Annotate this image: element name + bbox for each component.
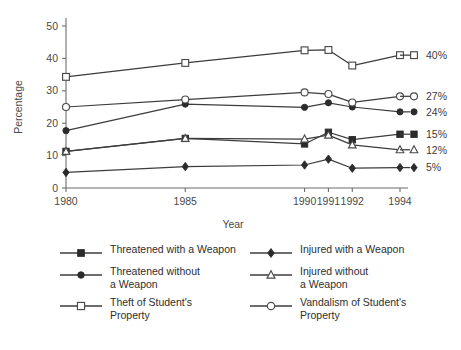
- data-point-open-circle-marker: [267, 302, 274, 309]
- legend-item-label: Threatened without a Weapon: [110, 265, 248, 290]
- data-point-open-circle-marker: [182, 96, 189, 103]
- data-point-filled-circle-marker: [78, 272, 85, 279]
- data-point-filled-diamond-marker: [63, 168, 69, 176]
- data-point-open-square-marker: [325, 47, 332, 54]
- data-point-open-square-marker: [411, 52, 418, 59]
- y-tick-label: 0: [52, 182, 58, 194]
- legend-item[interactable]: Theft of Student's Property: [58, 296, 248, 321]
- data-point-filled-diamond-marker: [325, 155, 331, 163]
- x-tick-label: 1980: [54, 195, 78, 207]
- data-point-open-triangle-marker: [410, 146, 418, 153]
- data-point-open-square-marker: [77, 302, 84, 309]
- data-point-open-circle-marker: [63, 104, 70, 111]
- legend-item-label: Theft of Student's Property: [110, 296, 248, 321]
- data-point-filled-circle-marker: [63, 128, 69, 134]
- legend-marker-filled-diamond: [248, 247, 294, 259]
- legend-marker-filled-circle: [58, 269, 104, 281]
- x-tick-label: 1992: [341, 195, 365, 207]
- legend-swatch: [58, 245, 104, 257]
- y-tick-label: 40: [46, 52, 58, 64]
- data-point-open-circle-marker: [301, 89, 308, 96]
- x-axis-title: Year: [222, 218, 244, 230]
- legend-item[interactable]: Injured with a Weapon: [248, 243, 448, 259]
- end-labels-group: 15%24%40%5%12%27%: [400, 49, 447, 173]
- legend-marker-filled-square: [58, 247, 104, 259]
- chart-legend: Threatened with a WeaponThreatened witho…: [0, 243, 461, 327]
- legend-swatch: [248, 267, 294, 279]
- data-point-filled-diamond-marker: [411, 163, 417, 171]
- y-tick-label: 20: [46, 117, 58, 129]
- series-end-label: 12%: [426, 144, 447, 156]
- series-end-label: 27%: [426, 90, 447, 102]
- data-point-open-square-marker: [349, 62, 356, 69]
- x-tick-label: 1990: [293, 195, 317, 207]
- data-point-filled-circle-marker: [411, 109, 417, 115]
- series-end-label: 40%: [426, 49, 447, 61]
- legend-item-label: Threatened with a Weapon: [110, 243, 248, 256]
- x-tick-label: 1994: [388, 195, 412, 207]
- data-point-filled-diamond-marker: [349, 164, 355, 172]
- data-point-filled-square-marker: [411, 131, 417, 137]
- legend-item-label: Injured without a Weapon: [300, 265, 448, 290]
- series-line-group: [63, 155, 403, 177]
- chart-axes: 01020304050198019851990199119921994: [46, 18, 412, 207]
- x-tick-label: 1985: [174, 195, 198, 207]
- y-tick-label: 50: [46, 20, 58, 32]
- data-point-filled-square-marker: [78, 250, 85, 257]
- data-point-filled-circle-marker: [325, 100, 331, 106]
- chart-series: [62, 47, 404, 177]
- legend-swatch: [248, 298, 294, 310]
- series-end-label: 15%: [426, 128, 447, 140]
- y-tick-label: 10: [46, 149, 58, 161]
- legend-column-right: Injured with a WeaponInjured without a W…: [248, 243, 448, 327]
- data-point-filled-circle-marker: [301, 104, 307, 110]
- legend-marker-open-square: [58, 300, 104, 312]
- data-point-open-square-marker: [63, 73, 70, 80]
- legend-swatch: [248, 245, 294, 257]
- legend-item[interactable]: Threatened with a Weapon: [58, 243, 248, 259]
- series-line-group: [62, 131, 404, 154]
- legend-marker-open-circle: [248, 300, 294, 312]
- series-line-group: [63, 47, 404, 81]
- legend-item-label: Injured with a Weapon: [300, 243, 448, 256]
- data-point-open-circle-marker: [325, 91, 332, 98]
- data-point-open-square-marker: [182, 60, 189, 67]
- x-tick-label: 1991: [317, 195, 341, 207]
- y-axis-title: Percentage: [12, 80, 24, 134]
- data-point-open-square-marker: [301, 47, 308, 54]
- data-point-open-circle-marker: [411, 93, 418, 100]
- data-point-filled-diamond-marker: [301, 161, 307, 169]
- legend-item[interactable]: Vandalism of Student's Property: [248, 296, 448, 321]
- legend-item[interactable]: Threatened without a Weapon: [58, 265, 248, 290]
- y-tick-label: 30: [46, 84, 58, 96]
- chart-page: 01020304050198019851990199119921994 15%2…: [0, 0, 461, 350]
- data-point-filled-diamond-marker: [182, 162, 188, 170]
- data-point-filled-diamond-marker: [268, 249, 275, 258]
- legend-swatch: [58, 267, 104, 279]
- line-chart-plot: 01020304050198019851990199119921994 15%2…: [0, 0, 461, 230]
- legend-item[interactable]: Injured without a Weapon: [248, 265, 448, 290]
- legend-column-left: Threatened with a WeaponThreatened witho…: [58, 243, 248, 327]
- legend-swatch: [58, 298, 104, 310]
- data-point-open-circle-marker: [349, 99, 356, 106]
- series-end-label: 24%: [426, 106, 447, 118]
- legend-marker-open-triangle: [248, 269, 294, 281]
- series-end-label: 5%: [426, 161, 441, 173]
- legend-item-label: Vandalism of Student's Property: [300, 296, 448, 321]
